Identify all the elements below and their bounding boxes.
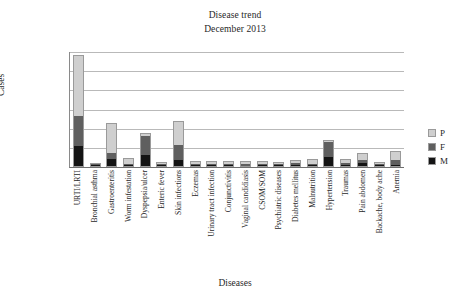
category-label: CSOM/SOM <box>257 170 266 210</box>
bar-segment-m <box>358 163 367 166</box>
category-label-slot: URTI/LRTI <box>69 170 86 270</box>
bar-segment-m <box>91 165 100 166</box>
category-label: Skin infections <box>173 170 182 215</box>
stacked-bar <box>206 161 217 167</box>
bar-slot <box>287 52 304 167</box>
category-label-slot: CSOM/SOM <box>253 170 270 270</box>
bar-slot <box>337 52 354 167</box>
category-label: Urinary tract infection <box>207 170 216 237</box>
category-label: Dyspepsia/ulcer <box>140 170 149 218</box>
bar-segment-m <box>124 165 133 166</box>
stacked-bar <box>390 151 401 167</box>
bar-slot <box>204 52 221 167</box>
bar-segment-m <box>157 165 166 166</box>
category-label-slot: Enteric fever <box>153 170 170 270</box>
bar-slot <box>254 52 271 167</box>
legend-swatch-icon <box>428 129 436 137</box>
chart-title-block: Disease trend December 2013 <box>0 8 470 36</box>
bar-segment-m <box>258 165 267 166</box>
bar-segment-f <box>141 136 150 155</box>
bar-segment-m <box>341 165 350 166</box>
category-label: Diabetes mellitus <box>291 170 300 222</box>
x-axis-category-labels: URTI/LRTIBronchial asthmaGastroenteritis… <box>69 170 404 270</box>
category-label-slot: Skin infections <box>170 170 187 270</box>
bar-segment-p <box>174 122 183 145</box>
category-label: Eczemas <box>190 170 199 197</box>
category-label-slot: Diabetes mellitus <box>287 170 304 270</box>
bar-segment-p <box>391 152 400 160</box>
chart-figure: Disease trend December 2013 Cases Diseas… <box>0 0 470 301</box>
bar-segment-m <box>224 165 233 166</box>
category-label: Bronchial asthma <box>90 170 99 223</box>
bar-slot <box>387 52 404 167</box>
bar-segment-f <box>174 145 183 160</box>
category-label: Enteric fever <box>157 170 166 209</box>
category-label: Backache, body ache <box>374 170 383 233</box>
category-label-slot: Malnutrition <box>304 170 321 270</box>
stacked-bar <box>323 140 334 167</box>
bar-segment-m <box>207 165 216 166</box>
bar-segment-m <box>375 165 384 166</box>
stacked-bar <box>223 161 234 167</box>
bar-slot <box>304 52 321 167</box>
bar-slot <box>237 52 254 167</box>
bar-series-group <box>70 52 404 167</box>
chart-subtitle: December 2013 <box>0 22 470 36</box>
stacked-bar <box>290 160 301 167</box>
bar-slot <box>354 52 371 167</box>
category-label-slot: Worm infestation <box>119 170 136 270</box>
category-label-slot: Bronchial asthma <box>86 170 103 270</box>
stacked-bar <box>273 162 284 167</box>
category-label-slot: Urinary tract infection <box>203 170 220 270</box>
bar-segment-m <box>274 165 283 166</box>
category-label-slot: Eczemas <box>186 170 203 270</box>
category-label: Traumas <box>341 170 350 196</box>
category-label-slot: Traumas <box>337 170 354 270</box>
bar-segment-m <box>191 165 200 166</box>
stacked-bar <box>340 159 351 168</box>
category-label-slot: Pain abdomen <box>354 170 371 270</box>
bar-slot <box>270 52 287 167</box>
category-label: URTI/LRTI <box>73 170 82 205</box>
category-label-slot: Anemia <box>387 170 404 270</box>
bar-slot <box>220 52 237 167</box>
category-label: Vaginal candidiasis <box>240 170 249 228</box>
stacked-bar <box>240 161 251 167</box>
category-label: Pain abdomen <box>358 170 367 213</box>
category-label: Conjunctivitis <box>224 170 233 212</box>
bar-segment-p <box>107 124 116 153</box>
bar-slot <box>120 52 137 167</box>
category-label: Psychiatric diseases <box>274 170 283 230</box>
y-axis-label: Cases <box>0 74 6 96</box>
category-label: Hypertension <box>324 170 333 210</box>
legend-item: F <box>428 140 470 154</box>
bar-segment-m <box>174 160 183 166</box>
category-label-slot: Vaginal candidiasis <box>237 170 254 270</box>
bar-segment-m <box>74 146 83 166</box>
bar-slot <box>187 52 204 167</box>
bar-segment-f <box>74 116 83 146</box>
bar-slot <box>87 52 104 167</box>
category-label-slot: Dyspepsia/ulcer <box>136 170 153 270</box>
bar-slot <box>371 52 388 167</box>
bar-slot <box>154 52 171 167</box>
legend-item: M <box>428 154 470 168</box>
bar-segment-m <box>141 155 150 166</box>
stacked-bar <box>257 161 268 167</box>
bar-slot <box>70 52 87 167</box>
legend-label: M <box>440 156 448 166</box>
legend-swatch-icon <box>428 157 436 165</box>
legend-label: F <box>440 142 445 152</box>
stacked-bar <box>123 158 134 167</box>
stacked-bar <box>106 123 117 167</box>
stacked-bar <box>156 162 167 167</box>
bar-segment-m <box>107 159 116 166</box>
stacked-bar <box>190 161 201 167</box>
plot-area: 0100200300400500600 <box>69 52 404 168</box>
stacked-bar <box>173 121 184 167</box>
bar-slot <box>103 52 120 167</box>
category-label-slot: Backache, body ache <box>371 170 388 270</box>
category-label-slot: Hypertension <box>320 170 337 270</box>
category-label: Malnutrition <box>307 170 316 208</box>
bar-slot <box>137 52 154 167</box>
